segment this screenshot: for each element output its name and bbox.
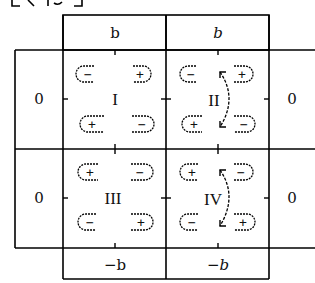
svg-text:−: − [237,165,245,180]
svg-text:−: − [84,67,92,82]
curved-arrow-icon [220,72,229,127]
svg-text:+: + [238,67,246,82]
svg-text:−: − [138,117,146,132]
row-left-label-1: 0 [34,90,44,108]
column-label-1: b [110,24,120,42]
row-right-label-1: 0 [287,90,297,108]
title-fragment [12,0,82,6]
svg-text:+: + [239,215,247,230]
quadrant-label-III: III [105,189,122,208]
column-bottom-label-2: −b [207,256,229,274]
svg-text:+: + [137,215,145,230]
svg-text:+: + [136,67,144,82]
svg-text:−: − [240,117,248,132]
quadrant-label-II: II [208,91,220,110]
quadrant-I: − + + − I [76,66,154,132]
svg-text:+: + [88,117,96,132]
quadrant-III: + − − + III [78,164,153,230]
svg-text:−: − [136,165,144,180]
svg-text:+: + [188,165,196,180]
svg-text:−: − [86,215,94,230]
quadrant-II: − + + − II [180,66,255,132]
quadrant-label-I: I [112,90,118,109]
quadrant-label-IV: IV [204,190,223,209]
svg-text:−: − [187,67,195,82]
row-left-label-2: 0 [34,189,44,207]
diagram: b b −b −b 0 0 0 0 − + + − I − + + − II +… [0,0,315,283]
row-right-label-2: 0 [287,189,297,207]
svg-text:+: + [190,117,198,132]
column-label-2: b [213,24,223,42]
column-bottom-label-1: −b [104,256,126,274]
svg-text:−: − [188,215,196,230]
svg-text:+: + [86,165,94,180]
quadrant-IV: + − − + IV [180,164,255,230]
